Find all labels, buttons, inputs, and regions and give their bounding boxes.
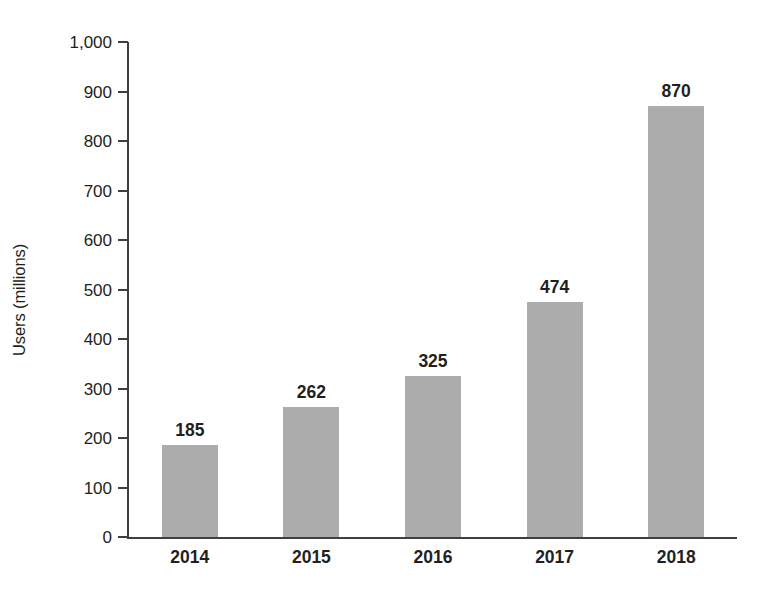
- bar-value-label: 325: [418, 352, 447, 370]
- y-axis-tick: [118, 91, 128, 93]
- y-axis-tick-label-wrap: 500: [0, 282, 112, 299]
- bar-value-label: 262: [297, 383, 326, 401]
- bar-group: 870: [615, 42, 737, 537]
- bar-group: 185: [129, 42, 251, 537]
- bar-value-label: 474: [540, 278, 569, 296]
- y-axis-tick-label: 0: [4, 529, 112, 546]
- y-axis-tick-label: 300: [4, 381, 112, 398]
- y-axis-tick-label: 1,000: [4, 34, 112, 51]
- x-axis-category-label: 2016: [414, 546, 453, 568]
- y-axis-tick: [118, 140, 128, 142]
- y-axis-tick-label: 100: [4, 480, 112, 497]
- y-axis-tick-label-wrap: 300: [0, 381, 112, 398]
- x-axis-category-label: 2015: [292, 546, 331, 568]
- y-axis-tick: [118, 536, 128, 538]
- y-axis-tick-label-wrap: 600: [0, 232, 112, 249]
- plot-area: 185262325474870: [129, 42, 737, 537]
- y-axis-tick-label-wrap: 800: [0, 133, 112, 150]
- bar-value-label: 870: [662, 82, 691, 100]
- y-axis-tick-label-wrap: 400: [0, 331, 112, 348]
- x-axis-labels: 20142015201620172018: [129, 546, 737, 576]
- x-axis-category-label: 2018: [657, 546, 696, 568]
- y-axis-tick: [118, 190, 128, 192]
- y-axis-tick-label-wrap: 0: [0, 529, 112, 546]
- bar-group: 325: [372, 42, 494, 537]
- y-axis-tick: [118, 41, 128, 43]
- y-axis-tick: [118, 487, 128, 489]
- y-axis-tick-label: 700: [4, 183, 112, 200]
- bar-chart: Users (millions) 01002003004005006007008…: [0, 0, 773, 600]
- y-axis-tick-label: 400: [4, 331, 112, 348]
- bar-group: 262: [251, 42, 373, 537]
- y-axis-tick-label-wrap: 200: [0, 430, 112, 447]
- y-axis-tick: [118, 338, 128, 340]
- y-axis-tick-label-wrap: 1,000: [0, 34, 112, 51]
- bar: [283, 407, 339, 537]
- y-axis-tick-label-wrap: 700: [0, 183, 112, 200]
- x-axis-category-label: 2017: [535, 546, 574, 568]
- y-axis-tick-label: 200: [4, 430, 112, 447]
- y-axis-tick-label-wrap: 100: [0, 480, 112, 497]
- y-axis-tick: [118, 289, 128, 291]
- bar: [405, 376, 461, 537]
- bar-group: 474: [494, 42, 616, 537]
- y-axis-tick: [118, 437, 128, 439]
- x-axis-category-label: 2014: [170, 546, 209, 568]
- bar-value-label: 185: [175, 421, 204, 439]
- y-axis-tick-label-wrap: 900: [0, 84, 112, 101]
- x-axis-line: [127, 537, 737, 539]
- bar: [527, 302, 583, 537]
- y-axis-tick: [118, 388, 128, 390]
- y-axis-tick-label: 900: [4, 84, 112, 101]
- bar: [162, 445, 218, 537]
- y-axis-tick-label: 500: [4, 282, 112, 299]
- y-axis-tick-label: 800: [4, 133, 112, 150]
- y-axis-tick-label: 600: [4, 232, 112, 249]
- bar: [648, 106, 704, 537]
- y-axis-tick: [118, 239, 128, 241]
